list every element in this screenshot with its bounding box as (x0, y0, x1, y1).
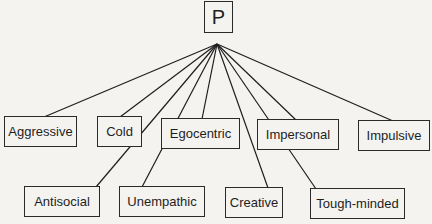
node-aggressive: Aggressive (4, 116, 77, 147)
node-label: Cold (106, 124, 133, 139)
node-impersonal: Impersonal (257, 119, 339, 150)
node-tough-minded: Tough-minded (310, 188, 405, 219)
node-impulsive: Impulsive (358, 120, 430, 151)
node-label: Impulsive (367, 128, 422, 143)
node-label: Unempathic (127, 194, 196, 209)
node-label: Creative (230, 195, 278, 210)
node-label: Antisocial (34, 194, 90, 209)
node-egocentric: Egocentric (161, 118, 240, 149)
root-node-label: P (212, 6, 225, 29)
node-unempathic: Unempathic (119, 186, 205, 217)
node-label: Aggressive (8, 124, 72, 139)
node-antisocial: Antisocial (24, 186, 100, 217)
node-cold: Cold (97, 116, 142, 147)
node-label: Egocentric (170, 126, 231, 141)
root-node-p: P (204, 1, 233, 33)
node-label: Impersonal (266, 127, 330, 142)
node-label: Tough-minded (316, 196, 398, 211)
node-creative: Creative (225, 187, 283, 218)
